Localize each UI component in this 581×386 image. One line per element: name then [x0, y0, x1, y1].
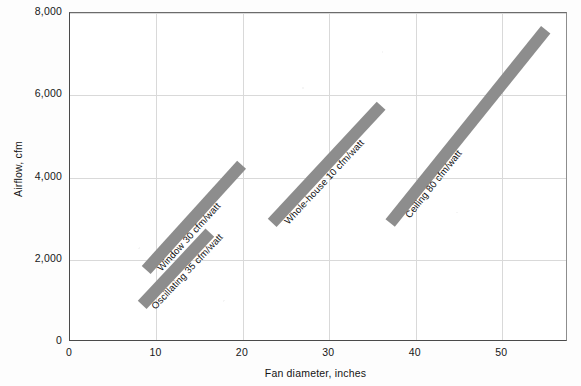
- y-tick-label: 0: [8, 334, 62, 346]
- gridline-horizontal: [70, 260, 566, 261]
- chart-figure: Oscillating 35 cfm/wattWindow 30 cfm/wat…: [0, 0, 581, 386]
- x-tick-label: 0: [49, 346, 89, 358]
- x-tick-label: 10: [135, 346, 175, 358]
- band-label: Whole-house 10 cfm/watt: [282, 136, 366, 225]
- gridline-vertical: [416, 13, 417, 340]
- x-tick-label: 20: [222, 346, 262, 358]
- x-axis-title-text: Fan diameter, inches: [215, 367, 366, 379]
- gridline-vertical: [243, 13, 244, 340]
- data-band: [268, 102, 385, 227]
- y-tick-label: 2,000: [8, 252, 62, 264]
- x-tick-label: 40: [395, 346, 435, 358]
- y-axis-title: Airflow, cfm: [12, 109, 24, 229]
- gridline-vertical: [502, 13, 503, 340]
- x-tick-label: 30: [308, 346, 348, 358]
- x-axis-title: Fan diameter, inches: [0, 367, 581, 379]
- x-tick-label: 50: [481, 346, 521, 358]
- y-tick-label: 8,000: [8, 5, 62, 17]
- plot-area: Oscillating 35 cfm/wattWindow 30 cfm/wat…: [69, 12, 567, 341]
- gridline-horizontal: [70, 13, 566, 14]
- data-band: [385, 26, 550, 226]
- y-tick-label: 6,000: [8, 87, 62, 99]
